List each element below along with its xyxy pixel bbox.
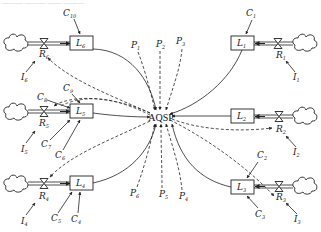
svg-text:I6: I6 [20, 72, 29, 83]
svg-text:P4: P4 [178, 191, 188, 202]
svg-text:C8: C8 [37, 92, 47, 103]
chain-L6: L6 R6 I6 C10 [4, 8, 156, 113]
parameters-bottom: P6 P5 P4 [129, 124, 188, 202]
cloud-source-icon [293, 177, 317, 194]
svg-text:C10: C10 [63, 8, 77, 19]
svg-text:R2: R2 [275, 124, 286, 135]
svg-text:I2: I2 [292, 147, 300, 158]
svg-text:R5: R5 [38, 118, 49, 129]
cloud-source-icon [4, 103, 28, 120]
svg-text:C7: C7 [41, 139, 52, 150]
svg-text:I1: I1 [292, 72, 300, 83]
svg-text:R1: R1 [275, 50, 286, 61]
valve-icon [40, 107, 48, 117]
svg-text:C9: C9 [63, 83, 74, 94]
system-dynamics-diagram: ——— ——— —— ——— L6 R6 I6 C10 L5 R5 I5 C8 … [0, 0, 321, 232]
parameters-top: P1 P2 P3 [130, 36, 185, 110]
cloud-source-icon [4, 34, 28, 51]
valve-icon [40, 179, 48, 189]
valve-icon [274, 39, 282, 49]
valve-icon [275, 112, 283, 122]
aqsp-node: AQSP [148, 112, 174, 123]
cloud-source-icon [4, 175, 28, 192]
chain-L1: L1 R1 I1 C1 [170, 8, 317, 114]
chain-L5: L5 R5 I5 C8 C9 C7 C6 [4, 83, 150, 161]
svg-text:R4: R4 [38, 191, 49, 202]
svg-text:P5: P5 [158, 189, 168, 200]
svg-text:I4: I4 [20, 216, 28, 227]
svg-text:P1: P1 [130, 40, 140, 51]
valve-icon [275, 182, 283, 192]
svg-text:C4: C4 [71, 214, 81, 225]
cloud-source-icon [293, 107, 317, 124]
svg-text:C2: C2 [257, 150, 267, 161]
cloud-source-icon [293, 34, 317, 51]
svg-text:P3: P3 [175, 36, 185, 47]
svg-text:C3: C3 [255, 209, 265, 220]
caption-fragment: ——— ——— —— ——— [1, 0, 85, 7]
svg-text:C5: C5 [51, 213, 61, 224]
svg-text:R3: R3 [275, 192, 286, 203]
chain-L4: L4 R4 I4 C5 C4 [4, 121, 156, 227]
svg-text:C1: C1 [246, 8, 256, 19]
chain-L3: L3 R3 I3 C2 C3 [170, 120, 317, 225]
svg-text:I5: I5 [20, 144, 28, 155]
valve-icon [40, 39, 48, 49]
svg-text:C6: C6 [55, 150, 66, 161]
svg-text:I3: I3 [293, 214, 301, 225]
svg-text:P6: P6 [129, 188, 140, 199]
svg-text:P2: P2 [155, 39, 165, 50]
